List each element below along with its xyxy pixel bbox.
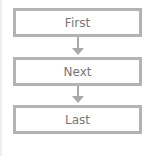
node-first-label: First <box>65 16 90 30</box>
node-last: Last <box>13 105 142 134</box>
arrow-down-icon <box>72 96 84 103</box>
left-edge-line <box>0 0 2 156</box>
arrow-down-icon <box>72 48 84 55</box>
node-next-label: Next <box>64 65 92 79</box>
node-last-label: Last <box>65 113 90 127</box>
node-first: First <box>13 8 142 37</box>
node-next: Next <box>13 57 142 86</box>
